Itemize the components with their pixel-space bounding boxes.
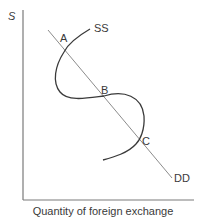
x-axis-label: Quantity of foreign exchange	[0, 205, 206, 217]
intersection-label-b: B	[101, 84, 108, 96]
intersection-label-c: C	[142, 135, 150, 147]
supply-curve-ss	[55, 29, 144, 160]
demand-curve-label: DD	[174, 172, 190, 184]
foreign-exchange-diagram: S SS DD A B C	[0, 0, 206, 224]
y-axis-label: S	[8, 10, 16, 22]
intersection-label-a: A	[60, 32, 68, 44]
demand-line-dd	[48, 30, 172, 178]
supply-curve-label: SS	[94, 22, 109, 34]
